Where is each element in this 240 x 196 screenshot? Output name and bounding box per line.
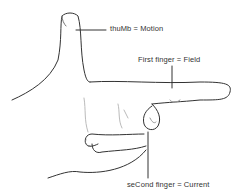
thumb-outline [12,13,90,100]
first-finger-label: First finger = Field [138,55,200,64]
second-finger-label: seCond finger = Current [127,180,210,189]
palm-outline [48,150,146,178]
first-finger-outline [90,81,230,104]
hand-rule-diagram: thuMb = Motion First finger = Field seCo… [0,0,240,196]
second-finger-outline [143,104,159,130]
thumb-label: thuMb = Motion [110,24,163,33]
